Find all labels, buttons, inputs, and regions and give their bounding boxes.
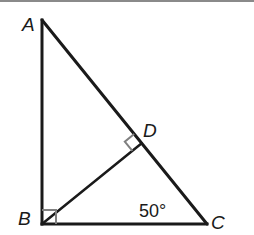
- vertex-label-c: C: [211, 212, 225, 233]
- right-angle-marker-d: [125, 134, 134, 151]
- vertex-label-b: B: [18, 208, 31, 229]
- vertex-label-a: A: [21, 14, 35, 35]
- vertex-label-d: D: [143, 120, 157, 141]
- segment-ac: [42, 20, 207, 224]
- triangle-diagram: A B C D 50°: [0, 0, 254, 235]
- angle-label-c: 50°: [139, 201, 166, 221]
